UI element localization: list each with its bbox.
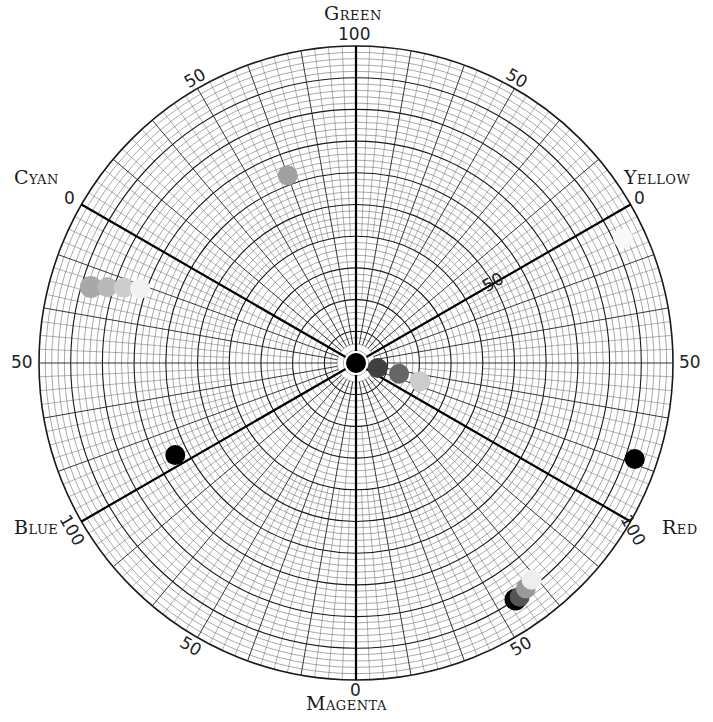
green-end-label: 100	[338, 24, 370, 44]
axis-label-magenta: Magenta	[306, 692, 387, 714]
data-point	[165, 445, 185, 465]
axis-label-yellow: Yellow	[624, 166, 690, 188]
axis-label-blue: Blue	[14, 516, 58, 538]
data-point	[368, 358, 388, 378]
magenta-end-label: 0	[350, 680, 361, 700]
cyan-end-label: 0	[64, 188, 75, 208]
yellow-end-label: 0	[634, 188, 645, 208]
data-point	[389, 364, 409, 384]
data-point	[625, 449, 645, 469]
data-point	[613, 228, 633, 248]
data-point	[278, 165, 298, 185]
tick-50-left: 50	[11, 352, 33, 372]
tick-50-right: 50	[679, 352, 701, 372]
axis-label-green: Green	[324, 2, 382, 24]
data-point	[522, 570, 542, 590]
data-point	[410, 371, 430, 391]
polar-chart	[0, 0, 713, 722]
axis-label-cyan: Cyan	[14, 166, 59, 188]
data-point	[345, 352, 367, 374]
data-point	[130, 279, 150, 299]
axis-label-red: Red	[662, 516, 698, 538]
